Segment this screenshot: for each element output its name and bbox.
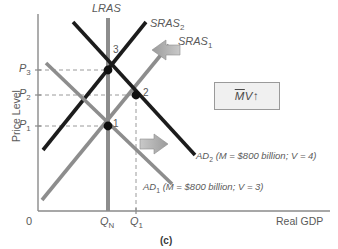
ad-shift-arrow bbox=[140, 134, 168, 154]
origin-label: 0 bbox=[26, 215, 32, 227]
money-symbol: M bbox=[235, 90, 245, 102]
curve-label-sras2: SRAS2 bbox=[150, 17, 184, 32]
macro-ad-as-diagram bbox=[0, 0, 338, 249]
y-tick-p3: P3 bbox=[19, 62, 31, 77]
up-arrow-icon: ↑ bbox=[253, 90, 259, 102]
point-1-label: 1 bbox=[113, 118, 119, 129]
y-axis-label: Price Level bbox=[10, 76, 22, 156]
curve-label-sras1: SRAS1 bbox=[178, 35, 212, 50]
mv-callout-text: MV↑ bbox=[235, 90, 260, 102]
point-1-dot bbox=[104, 122, 113, 131]
figure-container: LRAS SRAS2 SRAS1 AD2 (M = $800 billion; … bbox=[0, 0, 338, 249]
point-2-dot bbox=[132, 91, 141, 100]
point-3-label: 3 bbox=[113, 44, 119, 55]
point-2-label: 2 bbox=[143, 87, 149, 98]
velocity-symbol: V bbox=[245, 90, 253, 102]
figure-caption: (c) bbox=[160, 235, 172, 246]
x-tick-q1: Q1 bbox=[130, 215, 143, 230]
point-3-dot bbox=[104, 66, 113, 75]
curve-label-ad1: AD1 (M = $800 billion; V = 3) bbox=[143, 181, 264, 194]
x-axis-label: Real GDP bbox=[276, 215, 323, 227]
curve-label-lras: LRAS bbox=[92, 2, 121, 14]
curve-label-ad2: AD2 (M = $800 billion; V = 4) bbox=[196, 150, 317, 163]
sras-shift-arrow bbox=[152, 40, 180, 60]
x-tick-qn: QN bbox=[100, 215, 114, 230]
mv-callout-box: MV↑ bbox=[214, 82, 280, 110]
